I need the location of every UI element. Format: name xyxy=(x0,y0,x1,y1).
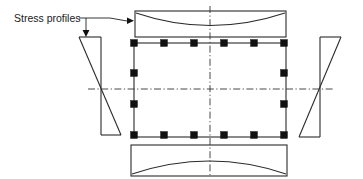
rebar-square xyxy=(251,40,258,47)
rebar-square xyxy=(161,40,168,47)
rebar-square xyxy=(221,40,228,47)
top-stress-profile xyxy=(135,11,286,37)
rebar-square xyxy=(281,101,288,108)
stress-profiles-label: Stress profiles xyxy=(14,12,81,24)
rebar-square xyxy=(221,132,228,139)
rebar-square xyxy=(281,40,288,47)
rebar-square xyxy=(161,132,168,139)
left-stress-profile xyxy=(79,37,121,135)
stress-profile-diagram: Stress profiles xyxy=(0,0,363,179)
diagram-canvas: Stress profiles xyxy=(0,0,363,179)
left-profile-diagonal xyxy=(79,37,121,135)
top-profile-box xyxy=(135,11,286,37)
top-profile-curve xyxy=(136,13,285,26)
rebar-square xyxy=(131,70,138,77)
rebar-square xyxy=(251,132,258,139)
rebar-square xyxy=(191,132,198,139)
centerlines xyxy=(88,6,334,176)
rebar-square xyxy=(131,40,138,47)
rebar-square xyxy=(281,70,288,77)
bottom-stress-profile xyxy=(131,145,287,176)
right-stress-profile xyxy=(299,37,341,137)
rebar-square xyxy=(281,132,288,139)
bottom-profile-curve xyxy=(132,161,286,174)
rebar-square xyxy=(191,40,198,47)
rebar-square xyxy=(131,101,138,108)
rebar-square xyxy=(131,132,138,139)
leader-arrowhead-right xyxy=(127,18,134,25)
leader-arrowhead-down xyxy=(83,30,90,37)
stress-profiles-annotation: Stress profiles xyxy=(14,12,134,37)
